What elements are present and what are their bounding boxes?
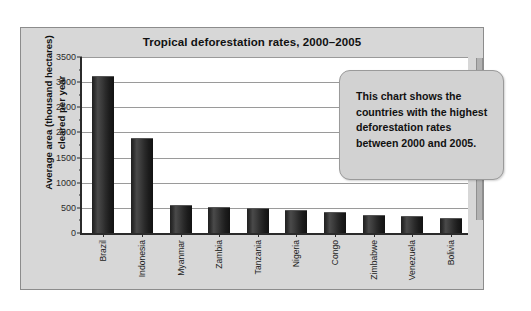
chart-screenshot: Tropical deforestation rates, 2000–2005 … [0,0,531,311]
bar-group: Myanmar [170,57,192,233]
x-tick-mark [296,233,297,237]
x-tick-label: Tanzania [253,240,263,274]
callout-tail-bottom-icon [476,180,483,220]
x-tick-mark [181,233,182,237]
bar-group: Nigeria [285,57,307,233]
x-tick-label: Zimbabwe [369,240,379,280]
y-tick-label: 1000 [56,178,76,188]
chart-title: Tropical deforestation rates, 2000–2005 [21,36,483,48]
y-tick-label: 2000 [56,127,76,137]
bar-group: Brazil [92,57,114,233]
bar-group: Tanzania [247,57,269,233]
bar [440,218,462,233]
x-tick-label: Zambia [214,240,224,269]
x-tick-label: Brazil [98,240,108,262]
chart-panel: Tropical deforestation rates, 2000–2005 … [20,27,484,290]
x-tick-mark [103,233,104,237]
bar [247,208,269,233]
callout-text: This chart shows the countries with the … [356,89,493,151]
bar [170,205,192,233]
x-tick-mark [335,233,336,237]
bar-group: Indonesia [131,57,153,233]
bar [363,215,385,233]
x-tick-mark [451,233,452,237]
x-tick-label: Venezuela [407,240,417,280]
y-tick-label: 3000 [56,77,76,87]
y-tick-label: 3500 [56,52,76,62]
x-tick-mark [412,233,413,237]
x-tick-label: Indonesia [137,240,147,277]
bar [208,207,230,233]
bar [285,210,307,233]
callout-box: This chart shows the countries with the … [339,70,504,180]
y-tick-label: 0 [71,228,76,238]
y-tick-label: 500 [61,203,76,213]
y-axis-title: Average area (thousand hectares) cleared… [43,23,68,203]
x-tick-mark [374,233,375,237]
x-tick-label: Congo [330,240,340,265]
x-tick-label: Nigeria [291,240,301,267]
bar-group: Zambia [208,57,230,233]
bar [324,212,346,233]
bar [401,216,423,233]
bar [131,138,153,233]
x-tick-mark [219,233,220,237]
y-tick-label: 2500 [56,102,76,112]
x-tick-mark [142,233,143,237]
x-tick-label: Bolivia [446,240,456,265]
y-tick-label: 1500 [56,153,76,163]
x-tick-label: Myanmar [176,240,186,276]
bar [92,76,114,233]
x-tick-mark [258,233,259,237]
